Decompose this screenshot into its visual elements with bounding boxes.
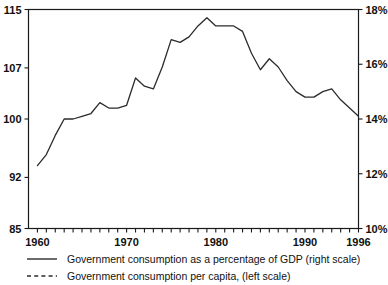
series-line-gdp-percentage <box>37 18 358 166</box>
legend-label-per-capita: Government consumption per capita, (left… <box>67 270 291 282</box>
left-axis-tick-labels: 8592100107115 <box>3 4 21 235</box>
left-tick-label: 100 <box>3 113 21 125</box>
right-tick-label: 12% <box>366 168 388 180</box>
x-tick-label: 1960 <box>25 236 49 248</box>
x-tick-label: 1980 <box>204 236 228 248</box>
chart-legend: Government consumption as a percentage o… <box>27 253 360 282</box>
right-tick-label: 16% <box>366 58 388 70</box>
left-tick-label: 115 <box>4 4 22 16</box>
x-tick-label: 1990 <box>293 236 317 248</box>
x-tick-label: 1996 <box>346 236 370 248</box>
chart-figure: 8592100107115 10%12%14%16%18% 1960197019… <box>0 0 388 285</box>
right-tick-label: 14% <box>366 113 388 125</box>
left-tick-label: 92 <box>9 171 21 183</box>
left-tick-label: 107 <box>3 62 21 74</box>
left-tick-label: 85 <box>9 223 21 235</box>
right-axis-tick-labels: 10%12%14%16%18% <box>366 4 388 235</box>
x-axis-ticks <box>37 229 358 233</box>
right-tick-label: 10% <box>366 223 388 235</box>
right-tick-label: 18% <box>366 4 388 16</box>
x-axis-tick-labels: 19601970198019901996 <box>25 236 371 248</box>
line-chart: 8592100107115 10%12%14%16%18% 1960197019… <box>0 0 388 285</box>
x-tick-label: 1970 <box>114 236 138 248</box>
plot-frame <box>29 10 359 229</box>
legend-label-gdp-percentage: Government consumption as a percentage o… <box>67 253 360 265</box>
